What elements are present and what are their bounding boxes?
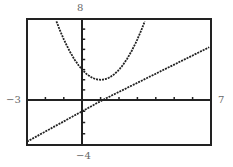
graph-window	[0, 0, 233, 167]
linear-function-line	[27, 47, 209, 141]
parabola-curve	[56, 21, 144, 79]
ymin-label: −4	[76, 150, 91, 161]
xmin-label: −3	[6, 94, 21, 105]
ymax-label: 8	[77, 2, 83, 13]
xmax-label: 7	[218, 94, 224, 105]
